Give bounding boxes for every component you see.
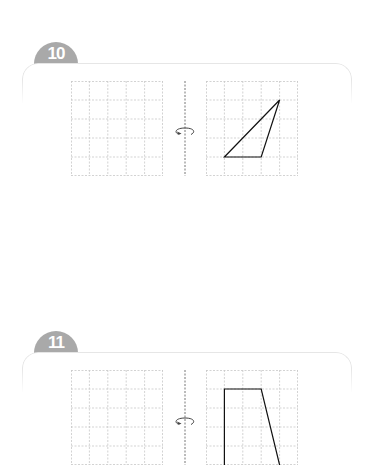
rotate-around-axis-icon xyxy=(174,124,196,142)
empty-answer-grid[interactable] xyxy=(71,370,163,465)
triangle-shape xyxy=(224,100,279,157)
shape-grid xyxy=(206,370,298,465)
problem-number-badge: 11 xyxy=(34,331,78,353)
rotate-around-axis-icon xyxy=(174,414,196,432)
shape-grid xyxy=(206,81,298,176)
problem-number-badge: 10 xyxy=(34,42,78,64)
empty-answer-grid[interactable] xyxy=(71,81,163,176)
